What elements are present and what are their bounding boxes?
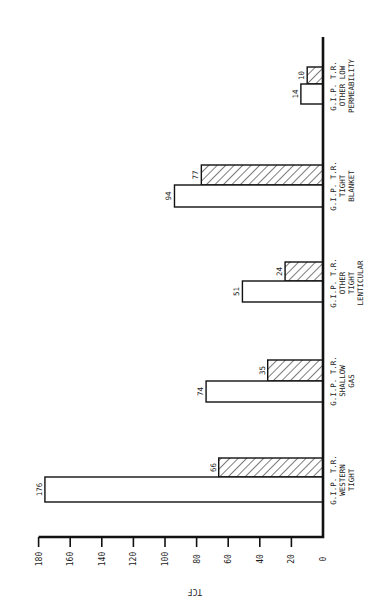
tick-label: 160 bbox=[66, 552, 75, 567]
bar-group: 3574 bbox=[196, 360, 323, 402]
bar-chart: 661763574245177941014 020406080100120140… bbox=[0, 0, 389, 606]
category-label-line: TIGHT bbox=[338, 174, 347, 197]
category-label-line: WESTERN bbox=[338, 464, 347, 496]
open-value-label: 176 bbox=[35, 482, 44, 496]
open-value-label: 94 bbox=[164, 191, 173, 201]
open-value-label: 14 bbox=[291, 89, 300, 99]
category-label-line: PERMEABILITY bbox=[347, 58, 356, 113]
bar-group: 66176 bbox=[35, 458, 323, 502]
tick-label: 0 bbox=[319, 556, 328, 561]
open-bar bbox=[301, 84, 323, 104]
hatched-bar bbox=[219, 458, 323, 477]
tick-label: 140 bbox=[98, 552, 107, 567]
category-label-line: OTHER bbox=[338, 271, 347, 294]
tick-label: 120 bbox=[129, 552, 138, 567]
open-bar bbox=[242, 281, 323, 302]
hatched-bar bbox=[268, 360, 323, 381]
tick-label: 180 bbox=[35, 552, 44, 567]
bar-group: 2451 bbox=[232, 262, 323, 302]
bars: 661763574245177941014 bbox=[35, 67, 323, 502]
category-label-line: BLANKET bbox=[347, 170, 356, 202]
hatched-value-label: 10 bbox=[297, 71, 306, 81]
open-value-label: 51 bbox=[232, 287, 241, 296]
open-bar bbox=[206, 381, 323, 402]
hatched-value-label: 77 bbox=[191, 170, 200, 179]
bar-group: 7794 bbox=[164, 165, 323, 207]
category-labels: G.I.P. T.R.WESTERNTIGHTG.I.P. T.R.SHALLO… bbox=[329, 58, 365, 504]
category-label-line: GAS bbox=[347, 374, 356, 388]
open-bar bbox=[45, 477, 323, 502]
open-bar bbox=[174, 185, 323, 207]
tick-label: 40 bbox=[256, 554, 265, 564]
category-label-line: G.I.P. T.R. bbox=[329, 258, 338, 308]
category-label-line: G.I.P. T.R. bbox=[329, 161, 338, 211]
category-label-line: G.I.P. T.R. bbox=[329, 61, 338, 111]
bar-group: 1014 bbox=[291, 67, 323, 104]
category-label-line: G.I.P. T.R. bbox=[329, 455, 338, 505]
hatched-bar bbox=[201, 165, 323, 185]
category-label-line: OTHER LOW bbox=[338, 65, 347, 106]
category-label-line: TIGHT bbox=[347, 468, 356, 491]
category-label-line: SHALLOW bbox=[338, 365, 347, 397]
open-value-label: 74 bbox=[196, 387, 205, 397]
hatched-bar bbox=[285, 262, 323, 281]
hatched-value-label: 24 bbox=[275, 267, 284, 277]
hatched-bar bbox=[307, 67, 323, 84]
tick-label: 60 bbox=[224, 554, 233, 564]
category-label-line: TIGHT bbox=[347, 271, 356, 294]
tick-label: 20 bbox=[287, 554, 296, 564]
category-label-line: G.I.P. T.R. bbox=[329, 356, 338, 406]
hatched-value-label: 35 bbox=[258, 366, 267, 375]
tick-label: 100 bbox=[161, 552, 170, 567]
axis-title: TCF bbox=[188, 587, 203, 596]
hatched-value-label: 66 bbox=[209, 463, 218, 473]
tick-label: 80 bbox=[193, 554, 202, 564]
category-label-line: LENTICULAR bbox=[356, 260, 365, 306]
